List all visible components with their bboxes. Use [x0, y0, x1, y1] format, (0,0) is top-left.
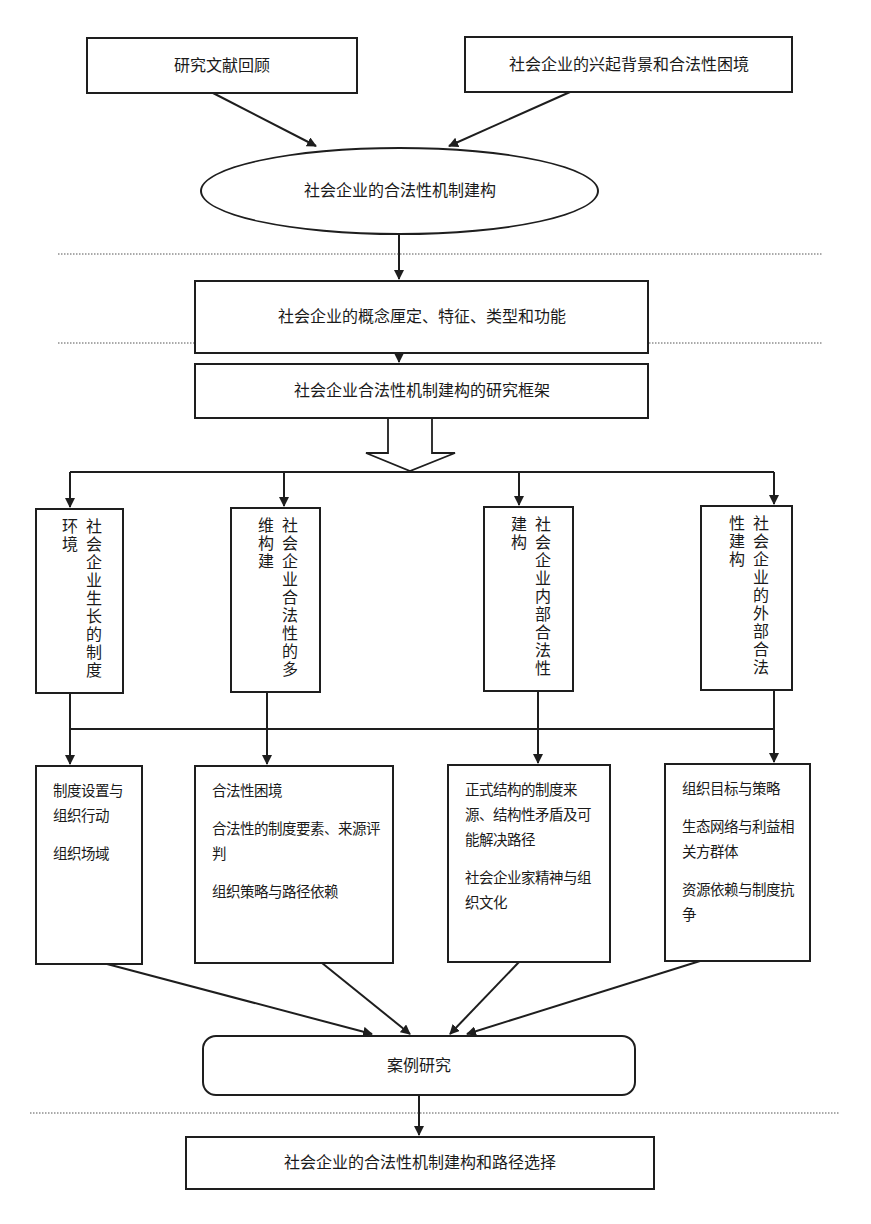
node-label: 研究文献回顾: [174, 56, 270, 75]
node-detail-2: 合法性困境 合法性的制度要素、来源评判 组织策略与路径依赖: [194, 765, 394, 964]
detail-item: 制度设置与组织行动: [53, 779, 133, 829]
node-background: 社会企业的兴起背景和合法性困境: [464, 36, 793, 93]
detail-item: 组织目标与策略: [682, 777, 801, 802]
node-label: 社会企业生长的制度环境: [56, 518, 104, 688]
node-label: 社会企业合法性机制建构的研究框架: [294, 381, 550, 400]
node-label: 社会企业的兴起背景和合法性困境: [509, 55, 749, 74]
detail-item: 资源依赖与制度抗争: [682, 878, 801, 928]
node-dimension-institutional-environment: 社会企业生长的制度环境: [35, 508, 124, 694]
node-case-study: 案例研究: [202, 1035, 636, 1096]
node-dimension-internal: 社会企业内部合法性建构: [483, 506, 574, 692]
node-label: 社会企业的概念厘定、特征、类型和功能: [278, 307, 566, 326]
hollow-down-arrow: [366, 418, 455, 471]
detail-item: 正式结构的制度来源、结构性矛盾及可能解决路径: [465, 778, 601, 853]
arrow-background-to-core: [449, 92, 570, 146]
detail-item: 社会企业家精神与组织文化: [465, 866, 601, 916]
node-detail-1: 制度设置与组织行动 组织场域: [35, 765, 143, 965]
node-conclusion: 社会企业的合法性机制建构和路径选择: [185, 1136, 655, 1190]
node-label: 社会企业的合法性机制建构: [304, 181, 496, 200]
node-concept: 社会企业的概念厘定、特征、类型和功能: [194, 280, 649, 354]
node-detail-3: 正式结构的制度来源、结构性矛盾及可能解决路径 社会企业家精神与组织文化: [447, 764, 611, 963]
node-label: 社会企业的外部合法性建构: [723, 515, 771, 685]
detail-item: 生态网络与利益相关方群体: [682, 815, 801, 865]
detail-item: 组织策略与路径依赖: [212, 880, 384, 905]
flowchart-canvas: 研究文献回顾 社会企业的兴起背景和合法性困境 社会企业的合法性机制建构 社会企业…: [0, 0, 871, 1224]
detail-item: 合法性的制度要素、来源评判: [212, 817, 384, 867]
node-framework: 社会企业合法性机制建构的研究框架: [194, 363, 649, 419]
node-dimension-external: 社会企业的外部合法性建构: [700, 505, 793, 691]
node-literature-review: 研究文献回顾: [86, 37, 358, 94]
node-label: 社会企业合法性的多维构建: [252, 517, 300, 687]
node-label: 社会企业的合法性机制建构和路径选择: [284, 1153, 556, 1172]
node-label: 社会企业内部合法性建构: [505, 516, 553, 686]
node-core-ellipse: 社会企业的合法性机制建构: [200, 147, 599, 235]
detail-item: 合法性困境: [212, 779, 384, 804]
detail-item: 组织场域: [53, 842, 133, 867]
node-detail-4: 组织目标与策略 生态网络与利益相关方群体 资源依赖与制度抗争: [664, 763, 811, 962]
node-label: 案例研究: [387, 1056, 451, 1075]
node-dimension-multidimensional: 社会企业合法性的多维构建: [230, 507, 321, 693]
arrow-literature-to-core: [213, 93, 316, 146]
